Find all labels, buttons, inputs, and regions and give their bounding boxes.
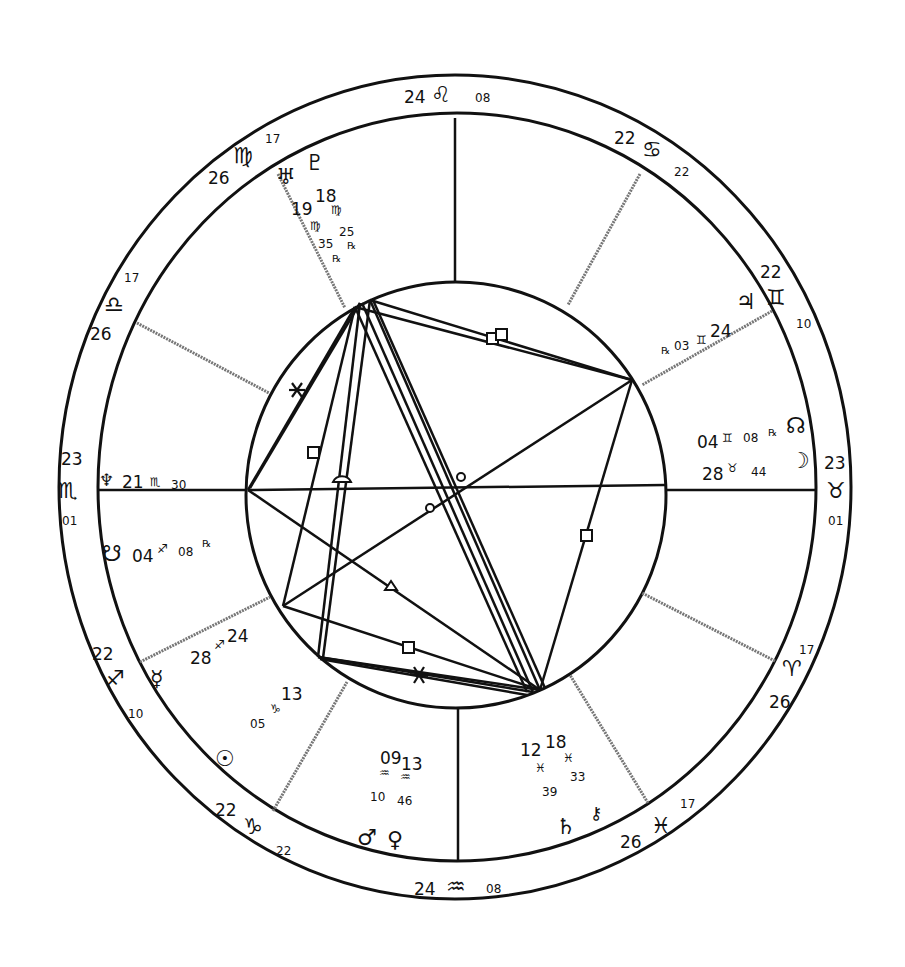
neptune-minutes: 30 — [171, 479, 186, 491]
uranus-sign-icon: ♍ — [310, 220, 321, 232]
capricorn-sign-icon: ♑ — [243, 816, 263, 838]
venus-minutes: 46 — [397, 795, 412, 807]
virgo-sign-icon: ♍ — [233, 145, 253, 167]
mars-degree: 09 — [380, 750, 402, 767]
chiron-icon: ⚷ — [590, 805, 602, 822]
cusp-scorpio-degree: 23 — [61, 451, 83, 468]
pluto-sign-icon: ♍ — [331, 204, 342, 216]
opposition-marker — [426, 504, 434, 512]
jupiter-degree: 03 — [674, 340, 689, 352]
cusp-gemini-minutes: 10 — [796, 318, 811, 330]
mercury-sign-icon: ♐ — [214, 639, 225, 651]
mars-minutes: 10 — [370, 791, 385, 803]
uranus-minutes: 35 — [318, 238, 333, 250]
mars-icon: ♂ — [357, 827, 377, 849]
cusp-aquarius-degree: 24 — [414, 881, 436, 898]
mars-sign-icon: ♒ — [379, 767, 390, 779]
north-node-sign-icon: ♊ — [722, 432, 733, 444]
aspect-lines — [248, 300, 665, 695]
chiron-degree: 18 — [545, 734, 567, 751]
cusp-cancer-degree: 22 — [614, 130, 636, 147]
uranus-retrograde-icon: ℞ — [332, 254, 341, 264]
uranus-degree: 19 — [291, 201, 313, 218]
north-node-degree: 04 — [697, 434, 719, 451]
venus-icon: ♀ — [387, 829, 403, 851]
leo-sign-icon: ♌ — [431, 84, 451, 106]
square-marker — [403, 642, 414, 653]
saturn-icon: ♄ — [556, 816, 576, 838]
cusp-leo-degree: 24 — [404, 89, 426, 106]
venus-sign-icon: ♒ — [400, 771, 411, 783]
aries-sign-icon: ♈ — [782, 658, 802, 680]
cusp-virgo-degree: 26 — [208, 170, 230, 187]
cusp-leo-minutes: 08 — [475, 92, 490, 104]
jupiter-retrograde-icon: ℞ — [661, 346, 670, 356]
scorpio-sign-icon: ♏ — [58, 480, 78, 502]
libra-sign-icon: ♎ — [104, 294, 124, 316]
sun-degree: 05 — [250, 718, 265, 730]
square-marker — [496, 329, 507, 340]
neptune-degree: 21 — [122, 474, 144, 491]
cusp-pisces-degree: 26 — [620, 834, 642, 851]
cusp-aries-minutes: 17 — [799, 644, 814, 656]
north-node-retrograde-icon: ℞ — [768, 428, 777, 438]
pluto-minutes: 25 — [339, 226, 354, 238]
pisces-sign-icon: ♓ — [651, 815, 671, 837]
cusp-aquarius-minutes: 08 — [486, 883, 501, 895]
cusp-cancer-minutes: 22 — [674, 166, 689, 178]
south-node-sign-icon: ♐ — [157, 543, 168, 555]
south-node-retrograde-icon: ℞ — [202, 539, 211, 549]
cusp-taurus-degree: 23 — [824, 455, 846, 472]
cusp-pisces-minutes: 17 — [680, 798, 695, 810]
pluto-retrograde-icon: ℞ — [347, 241, 356, 251]
aquarius-sign-icon: ♒ — [446, 876, 466, 898]
chiron-sign-icon: ♓ — [563, 752, 574, 764]
moon-sign-icon: ♉ — [727, 462, 738, 474]
jupiter-icon: ♃ — [736, 291, 756, 313]
trine-marker — [385, 581, 397, 590]
cusp-capricorn-minutes: 22 — [276, 845, 291, 857]
taurus-sign-icon: ♉ — [826, 480, 846, 502]
pluto-icon: ♇ — [305, 152, 325, 174]
cusp-libra-minutes: 17 — [124, 272, 139, 284]
moon-degree: 28 — [702, 466, 724, 483]
saturn-degree: 12 — [520, 742, 542, 759]
moon-minutes: 44 — [751, 466, 766, 478]
neptune-icon: ♆ — [99, 472, 114, 489]
cusp-aries-degree: 26 — [769, 694, 791, 711]
square-marker — [581, 530, 592, 541]
north-node-minutes: 08 — [743, 432, 758, 444]
mercury-icon: ☿ — [150, 668, 164, 690]
cusp-sagittarius-minutes: 10 — [128, 708, 143, 720]
south-node-minutes: 08 — [178, 546, 193, 558]
cusp-capricorn-degree: 22 — [215, 802, 237, 819]
cancer-sign-icon: ♋ — [642, 139, 662, 161]
opposition-marker — [457, 473, 465, 481]
trine-marker — [333, 476, 351, 482]
sagittarius-sign-icon: ♐ — [105, 668, 125, 690]
cusp-scorpio-minutes: 01 — [62, 515, 77, 527]
neptune-sign-icon: ♏ — [150, 476, 161, 488]
uranus-icon: ♅ — [276, 166, 296, 188]
north-node-icon: ☊ — [786, 415, 806, 437]
sun-sign-icon: ♑ — [270, 703, 281, 715]
chiron-minutes: 33 — [570, 771, 585, 783]
saturn-minutes: 39 — [542, 786, 557, 798]
cusp-libra-degree: 26 — [90, 326, 112, 343]
jupiter-minutes: 24 — [710, 323, 732, 340]
cusp-taurus-minutes: 01 — [828, 515, 843, 527]
square-marker — [308, 447, 319, 458]
jupiter-sign-icon: ♊ — [696, 334, 707, 346]
sun-icon: ☉ — [215, 748, 235, 770]
cusp-sagittarius-degree: 22 — [92, 646, 114, 663]
sun-minutes: 13 — [281, 686, 303, 703]
saturn-sign-icon: ♓ — [535, 762, 546, 774]
cusp-gemini-degree: 22 — [760, 264, 782, 281]
mercury-degree: 28 — [190, 650, 212, 667]
cusp-virgo-minutes: 17 — [265, 133, 280, 145]
south-node-degree: 04 — [132, 548, 154, 565]
mercury-minutes: 24 — [227, 628, 249, 645]
gemini-sign-icon: ♊ — [766, 287, 786, 309]
south-node-icon: ☋ — [102, 543, 122, 565]
moon-icon: ☽ — [790, 450, 810, 472]
